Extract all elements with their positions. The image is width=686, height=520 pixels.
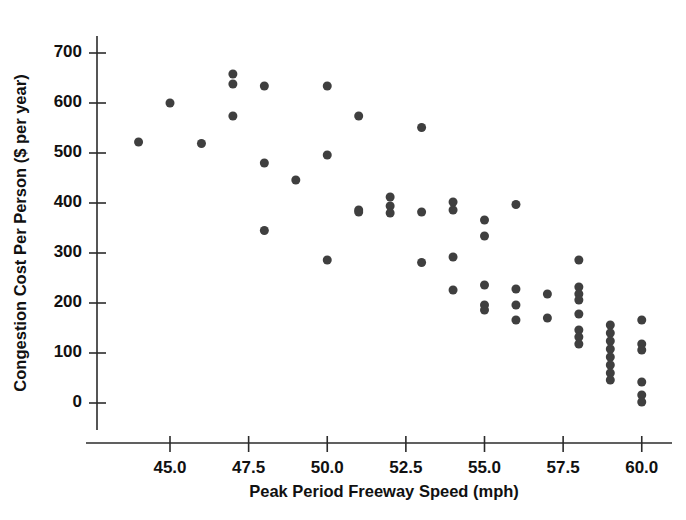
x-tick-label: 55.0 [468,458,501,477]
y-tick-label: 0 [73,392,82,411]
data-point [260,159,269,168]
data-point [480,306,489,315]
y-axis-ticks: 0100200300400500600700 [54,42,106,411]
data-point [606,361,615,370]
data-point [606,345,615,354]
data-point [637,398,646,407]
x-tick-label: 57.5 [547,458,580,477]
data-point [511,200,520,209]
data-point [480,281,489,290]
data-point [386,193,395,202]
x-tick-label: 50.0 [311,458,344,477]
data-point [291,176,300,185]
data-point [354,112,363,121]
data-point [480,232,489,241]
data-point [574,310,583,319]
data-point [606,353,615,362]
data-point [606,376,615,385]
data-point [606,329,615,338]
data-point [606,337,615,346]
y-tick-label: 200 [54,292,82,311]
data-point [166,99,175,108]
y-tick-label: 600 [54,92,82,111]
y-axis-title: Congestion Cost Per Person ($ per year) [11,74,29,391]
x-axis-title: Peak Period Freeway Speed (mph) [249,482,519,500]
data-point [449,253,458,262]
data-point [637,316,646,325]
data-point [543,314,552,323]
data-point [637,346,646,355]
data-point [449,198,458,207]
plot-area: 0100200300400500600700 45.047.550.052.55… [0,0,686,520]
data-point [386,209,395,218]
data-point [449,286,458,295]
data-point [228,70,237,79]
data-point [574,256,583,265]
data-point [260,226,269,235]
data-point [417,208,426,217]
data-point [323,256,332,265]
x-axis-ticks: 45.047.550.052.555.057.560.0 [153,436,658,477]
data-point [511,285,520,294]
data-point [354,208,363,217]
data-point [606,321,615,330]
y-tick-label: 700 [54,42,82,61]
y-tick-label: 500 [54,142,82,161]
data-point [511,301,520,310]
x-tick-label: 52.5 [389,458,422,477]
y-tick-label: 400 [54,192,82,211]
data-point [574,340,583,349]
data-point [543,290,552,299]
data-point [417,123,426,132]
x-tick-label: 45.0 [153,458,186,477]
scatter-chart: 0100200300400500600700 45.047.550.052.55… [0,0,686,520]
data-point [511,316,520,325]
data-point [637,378,646,387]
data-point [323,82,332,91]
data-point [228,112,237,121]
y-tick-label: 100 [54,342,82,361]
y-tick-label: 300 [54,242,82,261]
data-point [197,139,206,148]
data-points-layer [134,70,646,407]
x-tick-label: 60.0 [625,458,658,477]
data-point [480,216,489,225]
data-point [228,80,237,89]
data-point [323,151,332,160]
x-tick-label: 47.5 [232,458,265,477]
data-point [449,206,458,215]
data-point [260,82,269,91]
data-point [134,138,143,147]
data-point [417,258,426,267]
data-point [574,296,583,305]
